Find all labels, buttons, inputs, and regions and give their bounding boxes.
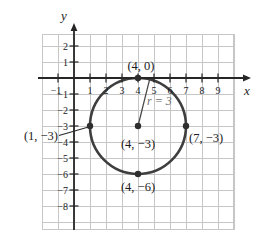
data-point bbox=[135, 171, 141, 177]
x-tick-label: 2 bbox=[104, 85, 109, 96]
y-tick-label: −5 bbox=[57, 153, 68, 164]
x-tick-label: 9 bbox=[216, 85, 221, 96]
y-tick-label: −1 bbox=[57, 89, 68, 100]
y-tick-label: −7 bbox=[57, 185, 68, 196]
y-tick-label: 1 bbox=[63, 57, 68, 68]
x-tick-label: 8 bbox=[200, 85, 205, 96]
point-label: (4, −6) bbox=[121, 180, 155, 194]
data-point bbox=[135, 75, 141, 81]
y-tick-label: −4 bbox=[57, 137, 68, 148]
point-label: (4, −3) bbox=[121, 137, 155, 151]
y-tick-label: −3 bbox=[57, 121, 68, 132]
x-axis-label: x bbox=[243, 83, 250, 98]
y-tick-label: −6 bbox=[57, 169, 68, 180]
y-axis-label: y bbox=[59, 8, 67, 23]
y-tick-label: −2 bbox=[57, 105, 68, 116]
x-axis-arrow bbox=[243, 75, 251, 82]
point-label: (7, −3) bbox=[189, 131, 223, 145]
x-tick-label: 3 bbox=[120, 85, 125, 96]
radius-label: r = 3 bbox=[147, 94, 172, 108]
point-label: (1, −3) bbox=[24, 129, 58, 143]
x-tick-label: 1 bbox=[88, 85, 93, 96]
coordinate-plane-figure: −112345678921−1−2−3−4−5−6−7−8yx(4, 0)(1,… bbox=[0, 0, 263, 240]
data-point bbox=[87, 123, 93, 129]
y-axis-arrow bbox=[71, 23, 78, 31]
x-tick-label: 4 bbox=[136, 85, 141, 96]
y-tick-label: −8 bbox=[57, 201, 68, 212]
x-tick-label: 7 bbox=[184, 85, 189, 96]
y-tick-label: 2 bbox=[63, 41, 68, 52]
point-label: (4, 0) bbox=[127, 59, 154, 73]
data-point bbox=[135, 123, 141, 129]
data-point bbox=[183, 123, 189, 129]
figure-canvas: −112345678921−1−2−3−4−5−6−7−8yx(4, 0)(1,… bbox=[0, 0, 263, 240]
